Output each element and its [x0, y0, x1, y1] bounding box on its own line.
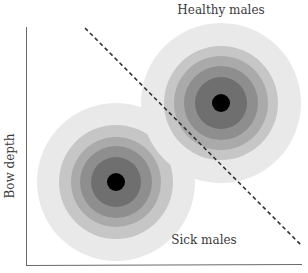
- healthy-males-label: Healthy males: [177, 3, 264, 17]
- sick-males-label: Sick males: [171, 233, 237, 247]
- healthy-males-cluster: [141, 23, 301, 183]
- diagram-canvas: Healthy males Sick males Bow depth: [0, 0, 308, 273]
- healthy-center-dot: [212, 94, 230, 112]
- x-axis: [26, 265, 302, 266]
- y-axis-label: Bow depth: [3, 133, 17, 198]
- sick-center-dot: [107, 173, 125, 191]
